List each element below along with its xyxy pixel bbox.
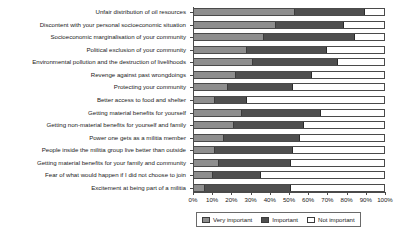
x-axis-tick (366, 192, 367, 195)
bar-segment-important (213, 172, 261, 178)
bar-segment-important (295, 9, 365, 15)
x-axis-tick (251, 192, 252, 195)
bar-segment-not-important (247, 97, 384, 103)
bar-row (193, 146, 385, 154)
category-axis-labels: Unfair distribution of oil resourcesDisc… (0, 8, 189, 192)
x-axis-tick (231, 192, 232, 195)
x-axis-tick (270, 192, 271, 195)
y-axis-tick (190, 113, 193, 114)
x-axis-tick (308, 192, 309, 195)
bar-segment-important (215, 147, 293, 153)
y-axis-tick (190, 163, 193, 164)
bar-row (193, 96, 385, 104)
x-axis-tick (327, 192, 328, 195)
y-axis-tick (190, 37, 193, 38)
bar-row (193, 46, 385, 54)
bar-segment-not-important (291, 185, 384, 191)
y-axis-tick (190, 62, 193, 63)
category-label: Fear of what would happen if I did not c… (0, 171, 189, 179)
legend-swatch-icon (202, 217, 210, 223)
category-label: Protecting your community (0, 83, 189, 91)
bar-segment-important (205, 185, 291, 191)
category-label: Power one gets as a militia member (0, 134, 189, 142)
y-axis-tick (190, 188, 193, 189)
legend-label: Important (272, 216, 298, 223)
legend-swatch-icon (307, 217, 315, 223)
bar-segment-very-important (194, 72, 236, 78)
bar-row (193, 171, 385, 179)
bar-segment-not-important (304, 122, 384, 128)
x-axis-tick (347, 192, 348, 195)
bar-segment-not-important (327, 47, 384, 53)
bar-segment-important (228, 84, 293, 90)
bar-segment-important (236, 72, 312, 78)
legend-label: Not important (318, 216, 355, 223)
bar-segment-very-important (194, 22, 276, 28)
bar-row (193, 71, 385, 79)
legend-item: Important (261, 216, 298, 223)
category-label: Excitement at being part of a militia (0, 184, 189, 192)
x-axis-tick-labels: 0%10%20%30%40%50%60%70%80%90%100% (193, 196, 385, 206)
bar-segment-not-important (355, 34, 384, 40)
bar-segment-not-important (291, 160, 384, 166)
bar-segment-not-important (261, 172, 385, 178)
bar-segment-very-important (194, 122, 234, 128)
bar-segment-not-important (365, 9, 384, 15)
bar-row (193, 184, 385, 192)
bar-row (193, 8, 385, 16)
x-axis-tick (193, 192, 194, 195)
x-axis-tick (289, 192, 290, 195)
bar-segment-not-important (293, 84, 384, 90)
y-axis-tick (190, 100, 193, 101)
bar-segment-important (264, 34, 355, 40)
category-label: Getting non-material benefits for yourse… (0, 121, 189, 129)
x-axis-tick-label: 40% (264, 196, 276, 204)
bar-segment-not-important (321, 110, 384, 116)
y-axis-tick (190, 25, 193, 26)
category-label: Getting material benefits for yourself (0, 109, 189, 117)
category-label: Revenge against past wrongdoings (0, 71, 189, 79)
category-label: Better access to food and shelter (0, 96, 189, 104)
x-axis-tick (385, 192, 386, 195)
bar-row (193, 159, 385, 167)
bar-segment-important (234, 122, 304, 128)
x-axis-tick-label: 10% (206, 196, 218, 204)
y-axis-tick (190, 50, 193, 51)
bar-segment-very-important (194, 47, 247, 53)
x-axis-tick-label: 90% (360, 196, 372, 204)
bar-row (193, 121, 385, 129)
bar-segment-very-important (194, 185, 205, 191)
bar-segment-not-important (293, 147, 384, 153)
x-axis-tick-label: 0% (189, 196, 198, 204)
bar-row (193, 21, 385, 29)
bar-row (193, 109, 385, 117)
x-axis-tick-label: 100% (377, 196, 393, 204)
bar-segment-very-important (194, 147, 215, 153)
x-axis-tick-label: 80% (340, 196, 352, 204)
x-axis-tick-label: 60% (302, 196, 314, 204)
category-label: People inside the militia group live bet… (0, 146, 189, 154)
bar-segment-very-important (194, 160, 219, 166)
bar-segment-important (215, 97, 247, 103)
category-label: Environmental pollution and the destruct… (0, 58, 189, 66)
y-axis-tick (190, 87, 193, 88)
legend-swatch-icon (261, 217, 269, 223)
bar-row (193, 33, 385, 41)
category-label: Unfair distribution of oil resources (0, 8, 189, 16)
y-axis-tick (190, 150, 193, 151)
category-label: Discontent with your personal socioecono… (0, 21, 189, 29)
bar-segment-important (219, 160, 291, 166)
x-axis-tick-label: 50% (283, 196, 295, 204)
stacked-bar-chart: Unfair distribution of oil resourcesDisc… (0, 0, 399, 238)
y-axis-tick (190, 12, 193, 13)
x-axis-tick (212, 192, 213, 195)
bar-segment-very-important (194, 59, 253, 65)
x-axis-tick-label: 30% (244, 196, 256, 204)
y-axis-tick (190, 125, 193, 126)
bar-segment-not-important (344, 22, 384, 28)
bar-segment-very-important (194, 172, 213, 178)
bar-segment-very-important (194, 97, 215, 103)
y-axis-tick (190, 175, 193, 176)
legend-item: Not important (307, 216, 355, 223)
category-label: Socioeconomic marginalisation of your co… (0, 33, 189, 41)
